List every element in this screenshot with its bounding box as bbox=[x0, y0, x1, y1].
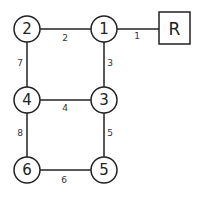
node-2: 2 bbox=[14, 16, 40, 42]
edge-weight: 4 bbox=[62, 103, 68, 113]
node-label: 4 bbox=[22, 91, 32, 109]
edge-weight: 7 bbox=[17, 58, 23, 68]
edge-3-4: 4 bbox=[40, 100, 91, 113]
edge-5-6: 6 bbox=[40, 170, 91, 185]
edge-4-6: 8 bbox=[17, 113, 27, 157]
node-5: 5 bbox=[91, 157, 117, 183]
node-3: 3 bbox=[91, 87, 117, 113]
node-label: 5 bbox=[99, 161, 109, 179]
node-1: 1 bbox=[91, 16, 117, 42]
node-label: 3 bbox=[99, 91, 109, 109]
node-label: 6 bbox=[22, 161, 32, 179]
graph-diagram: 1 2 3 4 5 6 7 8 R 1 2 3 bbox=[0, 0, 199, 197]
edge-weight: 3 bbox=[107, 58, 113, 68]
edge-weight: 1 bbox=[134, 31, 140, 41]
node-label: 2 bbox=[22, 20, 32, 38]
node-6: 6 bbox=[14, 157, 40, 183]
edge-weight: 8 bbox=[17, 128, 23, 138]
edge-r-1: 1 bbox=[117, 29, 159, 41]
edge-1-3: 3 bbox=[104, 42, 113, 87]
root-label: R bbox=[169, 19, 181, 39]
edge-1-2: 2 bbox=[40, 29, 91, 43]
edge-3-5: 5 bbox=[104, 113, 113, 157]
root-node: R bbox=[159, 12, 190, 44]
node-label: 1 bbox=[99, 20, 109, 38]
node-4: 4 bbox=[14, 87, 40, 113]
edge-weight: 5 bbox=[107, 128, 113, 138]
edge-weight: 6 bbox=[61, 175, 67, 185]
edge-2-4: 7 bbox=[17, 42, 27, 87]
edge-weight: 2 bbox=[62, 33, 68, 43]
